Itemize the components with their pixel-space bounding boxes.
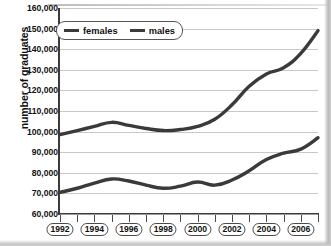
x-axis-tick xyxy=(266,215,267,222)
legend-swatch-females xyxy=(64,29,79,32)
x-axis-tick xyxy=(94,215,95,222)
y-axis-tick-label: 60,000 xyxy=(16,209,58,219)
x-axis-tick-label: 1994 xyxy=(81,223,108,236)
y-axis-tick-label: 150,000 xyxy=(16,24,58,34)
y-axis-tick-label: 120,000 xyxy=(16,85,58,95)
x-axis-tick xyxy=(215,215,216,222)
legend-label-males: males xyxy=(149,26,175,36)
legend-swatch-males xyxy=(130,29,145,32)
page-edge-top xyxy=(48,4,331,6)
y-axis-tick-label: 140,000 xyxy=(16,44,58,54)
chart-legend: females males xyxy=(56,21,183,40)
series-line-females xyxy=(60,31,318,135)
chart-figure: number of graduates 160,000150,000140,00… xyxy=(0,0,331,246)
x-axis-tick xyxy=(232,215,233,222)
y-axis-tick-label: 130,000 xyxy=(16,65,58,75)
x-axis-tick xyxy=(180,215,181,222)
x-axis-tick-label: 2000 xyxy=(184,223,211,236)
x-axis-tick xyxy=(318,215,319,222)
x-axis-tick xyxy=(198,215,199,222)
x-axis-tick-label: 2006 xyxy=(287,223,314,236)
x-axis-tick xyxy=(60,215,61,222)
x-axis-tick xyxy=(129,215,130,222)
y-axis-tick-label: 80,000 xyxy=(16,168,58,178)
x-axis-tick-label: 2004 xyxy=(253,223,280,236)
x-axis-tick-label: 1992 xyxy=(46,223,73,236)
x-axis-tick xyxy=(249,215,250,222)
x-axis-tick-label: 1998 xyxy=(150,223,177,236)
x-axis-ticks xyxy=(60,215,318,222)
x-axis-tick-labels: 19921994199619982000200220042006 xyxy=(60,223,318,241)
legend-label-females: females xyxy=(83,26,118,36)
y-axis-tick-labels: 160,000150,000140,000130,000120,000110,0… xyxy=(16,8,58,214)
x-axis-tick xyxy=(163,215,164,222)
x-axis-tick-label: 2002 xyxy=(218,223,245,236)
x-axis-tick xyxy=(77,215,78,222)
x-axis-tick xyxy=(284,215,285,222)
x-axis-tick xyxy=(301,215,302,222)
series-line-males xyxy=(60,138,318,193)
y-axis-tick-label: 70,000 xyxy=(16,188,58,198)
page-edge-right xyxy=(324,0,331,246)
y-axis-tick-label: 90,000 xyxy=(16,147,58,157)
x-axis-tick xyxy=(112,215,113,222)
y-axis-tick-label: 100,000 xyxy=(16,127,58,137)
x-axis-tick xyxy=(146,215,147,222)
x-axis-tick-label: 1996 xyxy=(115,223,142,236)
y-axis-tick-label: 160,000 xyxy=(16,3,58,13)
y-axis-tick-label: 110,000 xyxy=(16,106,58,116)
